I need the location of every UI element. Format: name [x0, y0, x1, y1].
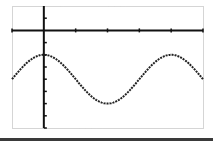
function-curve	[12, 55, 203, 104]
plot-frame	[13, 7, 204, 129]
bottom-bar	[0, 138, 213, 141]
axes	[12, 6, 203, 128]
graph-plot	[0, 0, 213, 141]
